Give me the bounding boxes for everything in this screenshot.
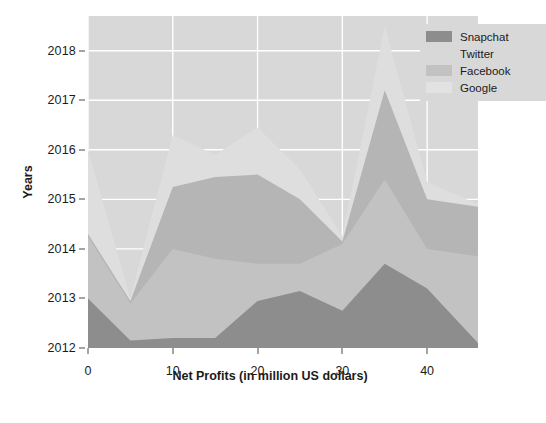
- legend-label-snapchat: Snapchat: [460, 31, 509, 43]
- y-axis-title: Years: [21, 122, 35, 242]
- x-tick-mark: [342, 348, 343, 354]
- y-tick-label: 2017: [47, 93, 76, 107]
- y-tick-mark: [79, 50, 85, 51]
- y-tick-mark: [79, 298, 85, 299]
- y-tick-mark: [79, 248, 85, 249]
- legend-item[interactable]: Snapchat: [426, 28, 542, 45]
- legend-label-google: Google: [460, 82, 497, 94]
- y-axis: Years 2012201320142015201620172018: [0, 0, 88, 364]
- legend-swatch-twitter: [426, 48, 452, 59]
- figure-caption: [0, 404, 540, 416]
- x-tick-mark: [427, 348, 428, 354]
- y-tick-mark: [79, 149, 85, 150]
- legend-item[interactable]: Twitter: [426, 45, 542, 62]
- y-tick-label: 2018: [47, 44, 76, 58]
- x-axis-title: Net Profits (in million US dollars): [0, 369, 540, 383]
- legend-item[interactable]: Google: [426, 79, 542, 96]
- legend: Snapchat Twitter Facebook Google: [420, 24, 546, 101]
- x-tick-mark: [88, 348, 89, 354]
- x-tick-mark: [257, 348, 258, 354]
- y-tick-mark: [79, 100, 85, 101]
- y-tick-label: 2014: [47, 242, 76, 256]
- x-tick-mark: [172, 348, 173, 354]
- legend-swatch-facebook: [426, 65, 452, 76]
- legend-swatch-google: [426, 82, 452, 93]
- legend-label-twitter: Twitter: [460, 48, 494, 60]
- legend-swatch-snapchat: [426, 31, 452, 42]
- y-tick-label: 2016: [47, 143, 76, 157]
- legend-label-facebook: Facebook: [460, 65, 511, 77]
- y-tick-label: 2015: [47, 192, 76, 206]
- legend-item[interactable]: Facebook: [426, 62, 542, 79]
- y-tick-label: 2013: [47, 291, 76, 305]
- y-tick-mark: [79, 199, 85, 200]
